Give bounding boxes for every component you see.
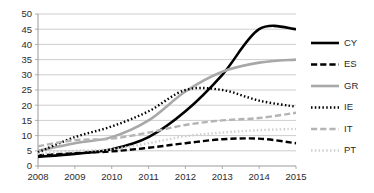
y-tick-label: 20 bbox=[21, 100, 32, 111]
legend-label-gr: GR bbox=[344, 80, 358, 91]
y-axis-tick-labels: 05101520253035404550 bbox=[21, 8, 32, 171]
x-tick-label: 2015 bbox=[285, 171, 306, 182]
x-tick-label: 2008 bbox=[27, 171, 48, 182]
legend-label-cy: CY bbox=[344, 37, 358, 48]
x-tick-label: 2011 bbox=[138, 171, 158, 182]
legend-label-pt: PT bbox=[344, 144, 356, 155]
y-tick-label: 10 bbox=[21, 130, 32, 141]
y-tick-label: 30 bbox=[21, 69, 32, 80]
x-tick-label: 2014 bbox=[249, 171, 270, 182]
data-series-group bbox=[38, 26, 296, 157]
legend-label-it: IT bbox=[344, 123, 353, 134]
y-tick-label: 40 bbox=[21, 39, 32, 50]
y-tick-label: 15 bbox=[21, 115, 32, 126]
chart-canvas: 05101520253035404550 2008200920102011201… bbox=[0, 0, 374, 193]
legend-label-ie: IE bbox=[344, 101, 353, 112]
line-chart: 05101520253035404550 2008200920102011201… bbox=[0, 0, 374, 193]
y-tick-label: 50 bbox=[21, 8, 32, 19]
y-tick-label: 25 bbox=[21, 84, 32, 95]
y-tick-label: 45 bbox=[21, 24, 32, 35]
series-line-cy bbox=[38, 26, 296, 157]
chart-legend: CYESGRIEITPT bbox=[311, 37, 358, 156]
series-line-pt bbox=[38, 129, 296, 154]
x-axis-tick-labels: 20082009201020112012201320142015 bbox=[27, 171, 306, 182]
y-tick-label: 35 bbox=[21, 54, 32, 65]
x-tick-label: 2013 bbox=[212, 171, 233, 182]
x-tick-label: 2010 bbox=[101, 171, 122, 182]
x-tick-label: 2009 bbox=[64, 171, 85, 182]
y-tick-label: 5 bbox=[27, 145, 32, 156]
y-tick-label: 0 bbox=[27, 160, 32, 171]
x-tick-label: 2012 bbox=[175, 171, 196, 182]
legend-label-es: ES bbox=[344, 58, 357, 69]
